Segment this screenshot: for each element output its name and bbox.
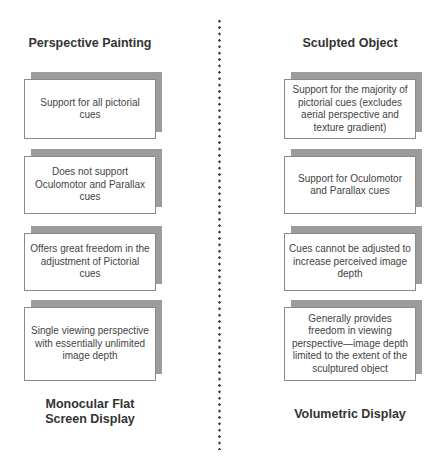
left-card-2: Does not support Oculomotor and Parallax… (24, 156, 156, 214)
card-text: Single viewing perspective with essentia… (24, 307, 156, 381)
comparison-diagram: Perspective Painting Support for all pic… (0, 0, 443, 458)
card-text: Support for all pictorial cues (24, 79, 156, 139)
right-bottom-title: Volumetric Display (274, 407, 426, 422)
left-card-4: Single viewing perspective with essentia… (24, 307, 156, 381)
card-text: Does not support Oculomotor and Parallax… (24, 156, 156, 214)
card-text: Cues cannot be adjusted to increase perc… (284, 233, 416, 291)
right-card-3: Cues cannot be adjusted to increase perc… (284, 233, 416, 291)
right-card-1: Support for the majority of pictorial cu… (284, 79, 416, 139)
left-top-title: Perspective Painting (24, 36, 156, 51)
card-text: Support for the majority of pictorial cu… (284, 79, 416, 139)
right-card-2: Support for Oculomotor and Parallax cues (284, 156, 416, 214)
right-card-4: Generally provides freedom in viewing pe… (284, 307, 416, 381)
left-bottom-title: Monocular Flat Screen Display (24, 397, 156, 427)
left-card-3: Offers great freedom in the adjustment o… (24, 233, 156, 291)
card-text: Generally provides freedom in viewing pe… (284, 307, 416, 381)
left-bottom-title-line2: Screen Display (24, 412, 156, 427)
dotted-divider (218, 18, 221, 450)
card-text: Support for Oculomotor and Parallax cues (284, 156, 416, 214)
left-card-1: Support for all pictorial cues (24, 79, 156, 139)
card-text: Offers great freedom in the adjustment o… (24, 233, 156, 291)
right-top-title: Sculpted Object (284, 36, 416, 51)
left-bottom-title-line1: Monocular Flat (24, 397, 156, 412)
